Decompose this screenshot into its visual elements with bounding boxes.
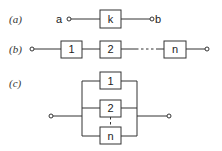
block-1-label: 1 [107,75,113,87]
terminal-a-label: a [56,13,63,25]
block-k-label: k [108,13,114,25]
terminal-in-icon [30,47,34,51]
row-b-label: (b) [9,43,22,56]
reliability-block-diagram: (a) a k b (b) 1 2 n (c) [0,0,222,151]
terminal-a-icon [67,17,71,21]
terminal-b-icon [150,17,154,21]
row-b-series-system: (b) 1 2 n [9,41,209,58]
row-c-parallel-system: (c) 1 2 n [9,72,171,144]
block-n-label: n [107,130,113,142]
row-a-label: (a) [9,13,22,26]
terminal-out-icon [167,114,171,118]
terminal-b-label: b [155,13,161,25]
block-1-label: 1 [68,43,74,55]
row-c-label: (c) [9,77,22,90]
block-n-label: n [172,43,178,55]
block-2-label: 2 [107,102,113,114]
terminal-out-icon [205,47,209,51]
terminal-in-icon [49,114,53,118]
row-a-single-block: (a) a k b [9,10,161,28]
block-2-label: 2 [107,43,113,55]
